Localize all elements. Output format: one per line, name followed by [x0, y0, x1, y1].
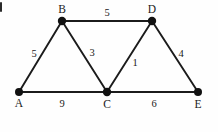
vertex-label-a: A — [15, 97, 24, 109]
vertex-dot-d — [148, 17, 156, 25]
vertex-label-c: C — [103, 98, 111, 110]
vertex-dot-a — [15, 88, 23, 96]
edge-weight-a-b: 5 — [31, 48, 36, 59]
edge-group — [19, 21, 198, 92]
vertex-dot-c — [103, 88, 111, 96]
edge-c-d — [107, 21, 152, 92]
vertex-label-e: E — [194, 98, 201, 110]
edge-weight-c-d: 1 — [132, 57, 137, 68]
vertex-label-b: B — [58, 3, 66, 15]
edge-weight-c-e: 6 — [151, 98, 156, 109]
edge-weight-a-c: 9 — [59, 98, 64, 109]
vertex-dot-b — [58, 17, 66, 25]
edge-weight-b-d: 5 — [104, 7, 109, 18]
edge-weight-b-c: 3 — [89, 47, 94, 58]
vertex-label-d: D — [148, 3, 156, 15]
edge-d-e — [152, 21, 198, 92]
graph-diagram-screenshot: A B C D E 5 5 3 1 4 9 6 — [0, 0, 218, 132]
vertex-dot-e — [194, 88, 202, 96]
edge-b-c — [62, 21, 107, 92]
edge-weight-d-e: 4 — [178, 48, 184, 59]
graph-canvas: A B C D E 5 5 3 1 4 9 6 — [0, 0, 218, 132]
edge-a-b — [19, 21, 62, 92]
